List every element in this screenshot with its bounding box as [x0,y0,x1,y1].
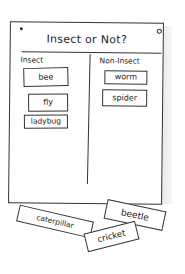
sorting-board: Insect or Not? Insect Non-Insect bee fly… [8,21,164,205]
card-bee[interactable]: bee [23,67,68,87]
column-heading-insect: Insect [21,55,44,64]
card-ladybug[interactable]: ladybug [24,114,68,128]
card-spider[interactable]: spider [102,89,147,106]
pin-icon [20,27,23,30]
column-heading-non-insect: Non-Insect [100,56,140,65]
card-caterpillar[interactable]: caterpillar [16,205,94,239]
card-worm[interactable]: worm [104,70,147,84]
column-divider [87,54,91,184]
header-divider [22,51,162,53]
board-title: Insect or Not? [11,32,163,47]
card-fly[interactable]: fly [28,93,68,111]
